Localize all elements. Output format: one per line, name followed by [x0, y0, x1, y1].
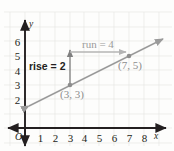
x-tick-8: 8	[140, 133, 149, 144]
point-label-3-3: (3, 3)	[60, 89, 84, 100]
y-tick-2: 2	[13, 95, 22, 106]
x-tick-7: 7	[125, 133, 134, 144]
rise-annotation: rise = 2	[29, 61, 66, 72]
x-tick-3: 3	[66, 133, 75, 144]
y-tick-3: 3	[13, 80, 22, 91]
x-axis-label: x	[154, 132, 158, 142]
point-label-7-5: (7, 5)	[118, 60, 142, 71]
y-tick-6: 6	[13, 37, 22, 48]
y-tick-4: 4	[13, 66, 22, 77]
x-tick-5: 5	[95, 133, 104, 144]
x-tick-6: 6	[110, 133, 119, 144]
y-axis-label: y	[29, 20, 33, 30]
origin-label: O	[15, 132, 22, 142]
grid-lines	[4, 12, 172, 146]
x-tick-4: 4	[80, 133, 89, 144]
y-tick-5: 5	[13, 51, 22, 62]
coordinate-plane-figure: 6 5 4 3 2 1 2 3 4 5 6 7 8 y x O rise = 2…	[0, 0, 174, 151]
point-3-3	[68, 83, 73, 88]
graph-canvas	[0, 0, 174, 151]
x-tick-1: 1	[36, 133, 45, 144]
point-7-5	[127, 54, 132, 59]
x-tick-2: 2	[51, 133, 60, 144]
run-annotation: run = 4	[82, 39, 114, 50]
